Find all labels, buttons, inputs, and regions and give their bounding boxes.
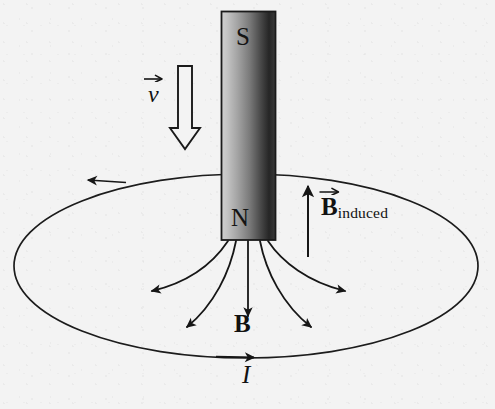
magnet-pole-label-south: S	[236, 24, 250, 49]
vector-arrow-accent-icon	[319, 186, 340, 195]
b-induced-label-letter: B	[321, 193, 338, 220]
current-arrowhead-top-left	[88, 180, 126, 183]
magnet-pole-label-north: N	[231, 205, 249, 230]
b-induced-label-subscript: induced	[338, 204, 388, 221]
current-arrowhead-bottom	[216, 357, 254, 358]
field-line-right-inner	[260, 241, 311, 327]
field-line-left-inner	[187, 241, 236, 327]
physics-diagram-figure: S N v B induced B I	[0, 0, 495, 409]
field-line-left-outer	[152, 241, 228, 291]
b-induced-label: B induced	[321, 194, 388, 221]
b-field-label: B	[234, 311, 251, 336]
current-label: I	[242, 362, 250, 387]
b-induced-vector-glyph: B	[321, 194, 338, 219]
velocity-arrow	[170, 66, 200, 149]
vector-arrow-accent-icon	[143, 73, 163, 82]
velocity-label: v	[148, 82, 159, 106]
velocity-label-letter: v	[148, 81, 159, 107]
field-line-right-outer	[268, 241, 345, 291]
velocity-vector-glyph: v	[148, 82, 159, 106]
